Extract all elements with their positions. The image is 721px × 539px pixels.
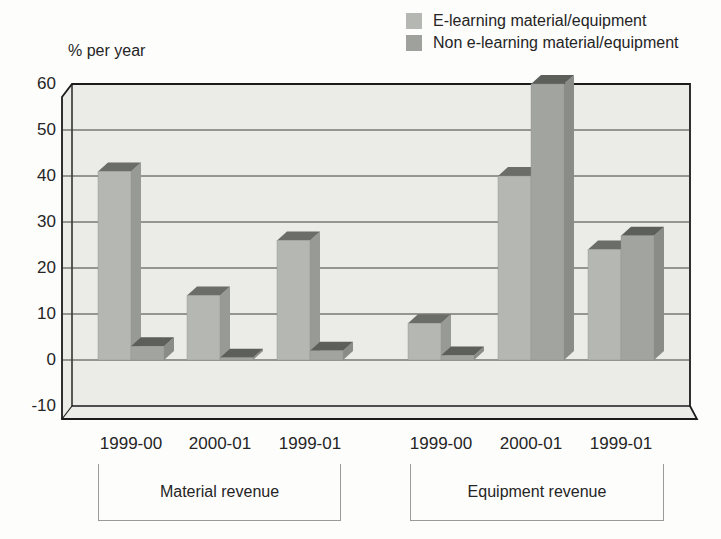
bar-front-face [277, 240, 310, 360]
bar-front-face [531, 84, 564, 360]
legend-item-non-elearning: Non e-learning material/equipment [406, 32, 678, 54]
bar-group-elearning-2 [277, 231, 320, 360]
legend-label-elearning: E-learning material/equipment [433, 12, 646, 30]
bar-front-face [498, 176, 531, 360]
bar-front-face [408, 323, 441, 360]
bar-side-face [220, 287, 230, 360]
legend-item-elearning: E-learning material/equipment [406, 10, 678, 32]
equipment-revenue-bracket: Equipment revenue [410, 464, 664, 521]
bar-side-face [654, 227, 664, 360]
material-revenue-bracket: Material revenue [98, 464, 341, 521]
bar-front-face [220, 358, 253, 360]
bar-side-face [131, 162, 141, 360]
legend: E-learning material/equipment Non e-lear… [406, 10, 678, 54]
legend-label-non-elearning: Non e-learning material/equipment [433, 34, 678, 52]
legend-swatch-elearning-icon [406, 13, 422, 29]
bar-group-non-elearning-5 [621, 227, 664, 360]
bar-front-face [131, 346, 164, 360]
bar-front-face [187, 296, 220, 360]
bar-front-face [588, 250, 621, 360]
bar-front-face [441, 355, 474, 360]
bracket-label-equipment: Equipment revenue [468, 483, 607, 501]
bar-group-elearning-0 [98, 162, 141, 360]
bracket-label-material: Material revenue [160, 483, 279, 501]
bar-group-non-elearning-4 [531, 75, 574, 360]
bar-side-face [564, 75, 574, 360]
bar-side-face [310, 231, 320, 360]
bar-group-non-elearning-0 [131, 337, 174, 360]
legend-swatch-non-elearning-icon [406, 35, 422, 51]
bar-front-face [310, 351, 343, 360]
y-axis-title: % per year [68, 42, 145, 60]
bar-chart-canvas [0, 0, 721, 539]
bar-group-elearning-1 [187, 287, 230, 360]
chart-figure: % per year E-learning material/equipment… [0, 0, 721, 539]
bar-front-face [621, 236, 654, 360]
bar-front-face [98, 171, 131, 360]
